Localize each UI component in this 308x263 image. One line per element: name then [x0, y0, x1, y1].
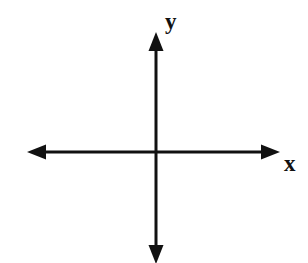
x-axis-label: x: [284, 152, 296, 175]
y-axis-bottom-arrowhead: [149, 245, 164, 263]
y-axis-top-arrowhead: [149, 32, 164, 51]
coordinate-axes-figure: y x: [0, 0, 308, 263]
y-axis-label: y: [165, 10, 177, 33]
x-axis-right-arrowhead: [261, 145, 280, 160]
axes-drawing: [0, 0, 308, 263]
x-axis-left-arrowhead: [27, 145, 46, 160]
